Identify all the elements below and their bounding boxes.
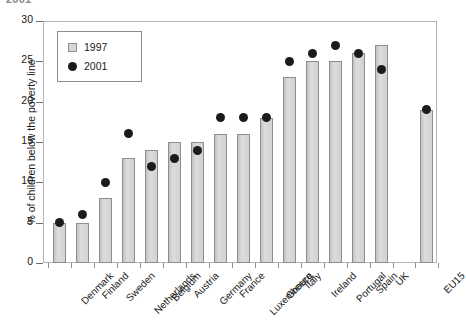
x-axis-tick	[94, 263, 95, 268]
x-axis-tick	[140, 263, 141, 268]
x-axis-tick	[278, 263, 279, 268]
legend-label-2001: 2001	[84, 60, 107, 72]
chart-legend: 1997 2001	[57, 31, 142, 82]
x-axis-tick	[232, 263, 233, 268]
x-axis-tick	[301, 263, 302, 268]
x-axis-tick	[438, 263, 439, 268]
bar-ireland	[306, 61, 319, 263]
y-axis-tick-mark	[36, 102, 43, 103]
y-axis-tick-label: 30	[21, 13, 33, 25]
dot-luxembourg	[239, 113, 248, 122]
bar-germany	[191, 142, 204, 263]
x-axis-label-eu15: EU15	[441, 270, 466, 295]
x-axis-tick	[324, 263, 325, 268]
bar-uk	[375, 45, 388, 263]
bar-luxembourg	[237, 134, 250, 263]
bar-sweden	[99, 198, 112, 263]
y-axis-tick-label: 25	[21, 53, 33, 65]
bar-denmark	[53, 223, 66, 263]
x-axis-tick	[347, 263, 348, 268]
x-axis-tick	[163, 263, 164, 268]
bar-france	[214, 134, 227, 263]
dot-finland	[78, 210, 87, 219]
y-axis-tick-mark	[36, 182, 43, 183]
bar-eu15	[420, 110, 433, 263]
y-axis-tick-label: 10	[21, 174, 33, 186]
y-axis-tick-mark	[36, 223, 43, 224]
y-axis-tick-label: 15	[21, 134, 33, 146]
x-axis-tick	[415, 263, 416, 268]
dot-italy	[285, 57, 294, 66]
legend-entry-2001: 2001	[68, 60, 107, 72]
dot-germany	[193, 146, 202, 155]
y-axis-tick-label: 5	[27, 215, 33, 227]
x-axis-tick	[71, 263, 72, 268]
dot-belgium	[147, 162, 156, 171]
legend-entry-1997: 1997	[68, 41, 107, 53]
bar-greece	[260, 118, 273, 263]
y-axis-tick-mark	[36, 61, 43, 62]
y-axis-tick-mark	[36, 21, 43, 22]
legend-label-1997: 1997	[84, 41, 107, 53]
bar-netherlands	[122, 158, 135, 263]
x-axis-tick	[209, 263, 210, 268]
x-axis-tick	[370, 263, 371, 268]
circle-swatch-icon	[68, 62, 77, 71]
dot-uk	[377, 65, 386, 74]
clipped-caption-remnant: 2001	[6, 0, 31, 5]
square-swatch-icon	[68, 43, 77, 52]
dot-spain	[354, 49, 363, 58]
dot-netherlands	[124, 129, 133, 138]
y-axis-tick-mark	[36, 263, 43, 264]
dot-france	[216, 113, 225, 122]
y-axis-tick-label: 0	[27, 255, 33, 267]
bar-italy	[283, 77, 296, 263]
x-axis-tick	[117, 263, 118, 268]
x-axis-tick	[186, 263, 187, 268]
bar-portugal	[329, 61, 342, 263]
dot-sweden	[101, 178, 110, 187]
dot-ireland	[308, 49, 317, 58]
y-axis-tick-mark	[36, 142, 43, 143]
dot-austria	[170, 154, 179, 163]
bar-finland	[76, 223, 89, 263]
dot-portugal	[331, 41, 340, 50]
x-axis-tick	[255, 263, 256, 268]
y-axis-tick-label: 20	[21, 94, 33, 106]
x-axis-tick	[48, 263, 49, 268]
x-axis-tick	[393, 263, 394, 268]
bar-spain	[352, 53, 365, 263]
